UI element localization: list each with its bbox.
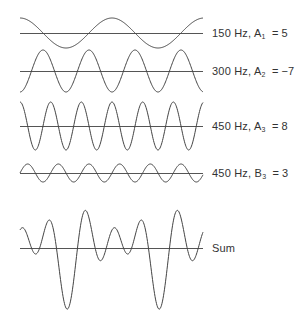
label-450hz-a3: 450 Hz, A3 =8 <box>212 121 288 132</box>
wave-300hz-group <box>20 50 203 92</box>
label-coef-index: 1 <box>262 33 266 40</box>
label-frequency: 450 Hz, <box>212 120 251 132</box>
waveform-sum <box>20 210 203 309</box>
label-sum-text: Sum <box>212 242 235 254</box>
label-coef-value: −7 <box>282 65 295 77</box>
label-frequency: 300 Hz, <box>212 65 251 77</box>
label-coef-letter: B <box>255 167 263 179</box>
sum-group <box>20 210 203 309</box>
label-coef-index: 3 <box>262 173 266 180</box>
label-coef-letter: A <box>254 27 262 39</box>
label-150hz: 150 Hz, A1 =5 <box>212 28 288 39</box>
label-equals: = <box>272 167 279 179</box>
label-coef-index: 3 <box>262 126 266 133</box>
label-equals: = <box>272 120 279 132</box>
label-coef-letter: A <box>254 120 262 132</box>
label-frequency: 450 Hz, <box>212 167 251 179</box>
wave-450hz-a-group <box>20 102 203 150</box>
label-coef-value: 3 <box>282 167 288 179</box>
label-equals: = <box>272 65 279 77</box>
label-frequency: 150 Hz, <box>212 27 251 39</box>
label-coef-value: 8 <box>282 120 288 132</box>
label-coef-index: 2 <box>262 71 266 78</box>
label-sum: Sum <box>212 243 235 254</box>
label-coef-letter: A <box>254 65 262 77</box>
label-coef-value: 5 <box>282 27 288 39</box>
wave-450hz-b-group <box>20 164 203 182</box>
label-equals: = <box>272 27 279 39</box>
label-450hz-b3: 450 Hz, B3 =3 <box>212 168 288 179</box>
fourier-synthesis-figure <box>0 0 305 329</box>
wave-150hz-group <box>20 18 203 48</box>
label-300hz: 300 Hz, A2 =−7 <box>212 66 294 77</box>
